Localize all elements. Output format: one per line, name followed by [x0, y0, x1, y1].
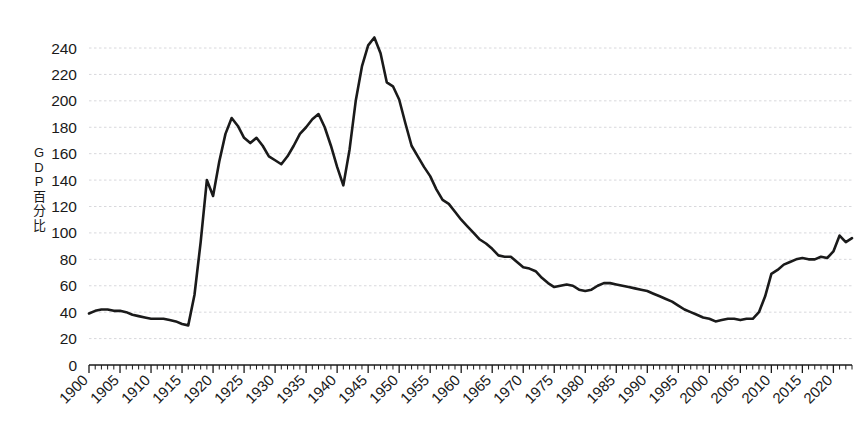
gridlines: [89, 48, 852, 339]
y-axis-tick-label: 40: [60, 304, 78, 321]
y-axis-tick-label: 80: [60, 251, 78, 268]
y-axis-tick-label: 120: [51, 198, 77, 215]
x-axis-tick-label: 1960: [428, 371, 464, 407]
x-axis-tick-label: 1935: [273, 371, 309, 407]
x-axis-tick-label: 1915: [149, 371, 185, 407]
x-axis-tick-label: 2020: [800, 371, 836, 407]
x-axis-tick-label: 2000: [676, 371, 712, 407]
x-axis-tick-label: 2015: [769, 371, 805, 407]
x-axis-tick-label: 2005: [707, 371, 743, 407]
x-axis-tick-label: 1945: [335, 371, 371, 407]
x-axis-tick-label: 1995: [645, 371, 681, 407]
x-axis-tick-label: 1980: [552, 371, 588, 407]
y-axis-tick-label: 240: [51, 40, 77, 57]
x-axis-tick-label: 1920: [180, 371, 216, 407]
x-axis-tick-label: 1975: [521, 371, 557, 407]
data-line-series: [89, 37, 852, 325]
y-axis-tick-label: 200: [51, 92, 77, 109]
x-axis-tick-label: 1990: [614, 371, 650, 407]
y-axis-tick-label: 20: [60, 330, 78, 347]
y-axis-tick-labels: 020406080100120140160180200220240: [51, 40, 77, 374]
x-axis-tick-label: 1965: [459, 371, 495, 407]
data-line: [89, 37, 852, 325]
y-axis-tick-label: 60: [60, 277, 78, 294]
chart-container: G D P 百 分 比 0204060801001201401601802002…: [0, 0, 864, 440]
y-axis-tick-label: 160: [51, 145, 77, 162]
y-axis-tick-label: 140: [51, 172, 77, 189]
x-axis-tick-label: 1905: [87, 371, 123, 407]
y-axis-tick-label: 180: [51, 119, 77, 136]
x-axis-tick-label: 1940: [304, 371, 340, 407]
x-axis-tick-label: 1900: [56, 371, 92, 407]
x-axis-tick-label: 1910: [118, 371, 154, 407]
x-axis-tick-label: 1985: [583, 371, 619, 407]
y-axis-tick-label: 220: [51, 66, 77, 83]
line-chart: 020406080100120140160180200220240 190019…: [0, 0, 864, 440]
x-axis-tick-label: 1955: [397, 371, 433, 407]
x-axis-tick-label: 1930: [242, 371, 278, 407]
y-axis-tick-label: 0: [68, 357, 77, 374]
x-axis-tick-label: 1970: [490, 371, 526, 407]
x-axis-tick-label: 1925: [211, 371, 247, 407]
x-axis-tick-labels: 1900190519101915192019251930193519401945…: [56, 371, 836, 407]
y-axis-tick-label: 100: [51, 224, 77, 241]
x-axis-tick-label: 2010: [738, 371, 774, 407]
x-axis-tick-label: 1950: [366, 371, 402, 407]
